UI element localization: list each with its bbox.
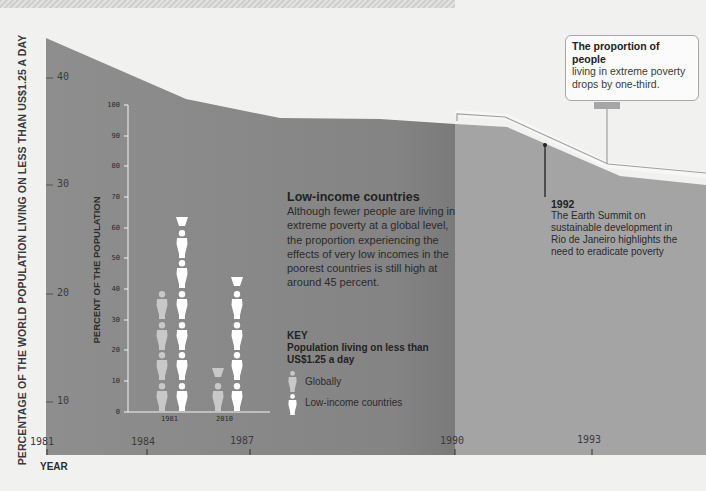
annotation-body: Although fewer people are living in extr…: [287, 204, 457, 289]
y-tick-10: 10: [57, 395, 69, 406]
inset-tick-60: 60: [100, 224, 120, 232]
legend-item-globally: Globally: [287, 376, 457, 387]
x-tick-1993: 1993: [577, 434, 601, 445]
callout-title: The proportion of people: [572, 40, 659, 65]
low-income-annotation: Low-income countries Although fewer peop…: [287, 190, 457, 289]
legend-item-low-income: Low-income countries: [287, 397, 457, 408]
x-tick-1987: 1987: [230, 435, 254, 446]
y-tick-40: 40: [57, 71, 69, 82]
y-tick-20: 20: [57, 287, 69, 298]
x-tick-1981: 1981: [30, 436, 54, 447]
inset-tick-20: 20: [100, 346, 120, 354]
legend-label-globally: Globally: [305, 376, 341, 387]
callout-box: The proportion of people living in extre…: [565, 35, 699, 101]
legend-title: KEY: [287, 330, 457, 342]
inset-tick-0: 0: [100, 408, 120, 416]
y-tick-30: 30: [57, 178, 69, 189]
x-tick-1990: 1990: [440, 435, 464, 446]
event-1992: 1992 The Earth Summit on sustainable dev…: [551, 198, 681, 258]
event-year: 1992: [551, 198, 681, 210]
inset-tick-80: 80: [100, 162, 120, 170]
x-tick-1984: 1984: [131, 436, 155, 447]
annotation-title: Low-income countries: [287, 190, 457, 204]
inset-tick-30: 30: [100, 316, 120, 324]
main-y-axis-label: PERCENTAGE OF THE WORLD POPULATION LIVIN…: [16, 35, 28, 466]
legend: KEY Population living on less than US$1.…: [287, 330, 457, 408]
callout-body: living in extreme poverty drops by one-t…: [572, 65, 685, 90]
inset-x-2010: 2010: [216, 415, 233, 423]
x-axis-title: YEAR: [40, 461, 68, 472]
inset-tick-70: 70: [100, 193, 120, 201]
event-body: The Earth Summit on sustainable developm…: [551, 210, 677, 257]
inset-tick-90: 90: [100, 132, 120, 140]
inset-tick-50: 50: [100, 254, 120, 262]
inset-tick-100: 100: [100, 101, 120, 109]
inset-tick-10: 10: [100, 377, 120, 385]
legend-subtitle: Population living on less than US$1.25 a…: [287, 342, 457, 366]
inset-tick-40: 40: [100, 285, 120, 293]
inset-x-1981: 1981: [161, 415, 178, 423]
legend-label-low-income: Low-income countries: [305, 397, 402, 408]
